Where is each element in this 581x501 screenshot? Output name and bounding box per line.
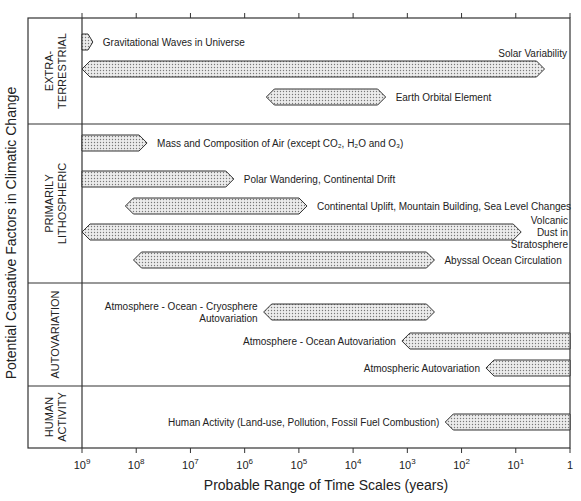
- x-axis-title: Probable Range of Time Scales (years): [204, 477, 448, 493]
- factor-label: Atmosphere - Ocean - Cryosphere: [105, 301, 258, 312]
- factor-label: Dust in: [537, 227, 568, 238]
- time-scale-chart: EXTRA-TERRESTRIALPRIMARILYLITHOSPHERICAU…: [0, 0, 581, 501]
- group-label: EXTRA-: [43, 50, 55, 91]
- group-label: ACTIVITY: [56, 392, 68, 442]
- x-axis-ticks: 1091081071061051041031021011: [74, 13, 573, 471]
- factor-label: Earth Orbital Element: [396, 92, 492, 103]
- factor-bar: [82, 61, 545, 77]
- factor-bar: [445, 414, 570, 430]
- factor-bar: [82, 34, 93, 50]
- x-tick-label: 103: [399, 457, 416, 471]
- factor-bar: [134, 252, 435, 268]
- factor-bars: Gravitational Waves in UniverseSolar Var…: [82, 34, 571, 430]
- group-label: AUTOVARIATION: [49, 290, 61, 378]
- factor-label: Solar Variability: [498, 48, 567, 59]
- x-tick-label: 106: [236, 457, 253, 471]
- group-label: LITHOSPHERIC: [56, 163, 68, 244]
- factor-bar: [82, 171, 234, 187]
- factor-bar: [82, 135, 147, 151]
- factor-label: Human Activity (Land-use, Pollution, Fos…: [168, 417, 439, 428]
- x-tick-label: 108: [128, 457, 145, 471]
- factor-label: Autovariation: [199, 313, 257, 324]
- x-tick-label: 109: [74, 457, 91, 471]
- group-label: PRIMARILY: [43, 174, 55, 233]
- factor-label: Polar Wandering, Continental Drift: [244, 174, 396, 185]
- factor-label: Abyssal Ocean Circulation: [444, 255, 561, 266]
- factor-label: Continental Uplift, Mountain Building, S…: [317, 201, 571, 212]
- factor-label: Gravitational Waves in Universe: [103, 37, 245, 48]
- factor-bar: [82, 224, 521, 240]
- factor-label: Atmospheric Autovariation: [364, 363, 480, 374]
- factor-label: Atmosphere - Ocean Autovariation: [243, 336, 396, 347]
- x-tick-label: 101: [507, 457, 524, 471]
- factor-bar: [264, 304, 435, 320]
- y-axis-title: Potential Causative Factors in Climatic …: [3, 86, 19, 379]
- x-tick-label: 1: [567, 459, 573, 471]
- x-tick-label: 102: [453, 457, 470, 471]
- group-label: TERRESTRIAL: [56, 33, 68, 109]
- factor-bar: [486, 360, 570, 376]
- x-tick-label: 104: [345, 457, 362, 471]
- factor-bar: [125, 198, 307, 214]
- x-tick-label: 107: [182, 457, 199, 471]
- factor-bar: [266, 89, 385, 105]
- factor-label: Volcanic: [531, 215, 568, 226]
- x-tick-label: 105: [291, 457, 308, 471]
- factor-label: Mass and Composition of Air (except CO₂,…: [157, 138, 403, 149]
- factor-bar: [402, 333, 570, 349]
- factor-label: Stratosphere: [511, 239, 569, 250]
- group-label: HUMAN: [43, 397, 55, 437]
- group-labels: EXTRA-TERRESTRIALPRIMARILYLITHOSPHERICAU…: [43, 33, 68, 442]
